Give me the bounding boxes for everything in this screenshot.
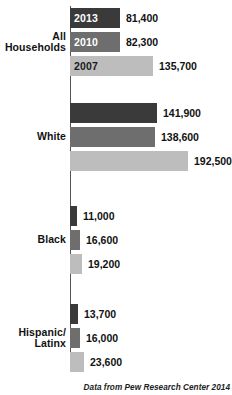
bar: 2007 bbox=[70, 56, 153, 76]
bar-value-label: 19,200 bbox=[88, 258, 120, 270]
bar-row: 138,600 bbox=[0, 127, 232, 147]
bar-chart: AllHouseholds201381,400201082,3002007135… bbox=[0, 0, 232, 395]
source-note: Data from Pew Research Center 2014 bbox=[84, 383, 230, 392]
bar-row: 19,200 bbox=[0, 254, 232, 274]
bar-row: 201381,400 bbox=[0, 8, 232, 28]
bar-value-label: 16,600 bbox=[86, 234, 118, 246]
bar: 2010 bbox=[70, 32, 120, 52]
bar: 2013 bbox=[70, 8, 120, 28]
bar-value-label: 141,900 bbox=[163, 107, 201, 119]
bar bbox=[70, 304, 78, 324]
bar-row: 11,000 bbox=[0, 206, 232, 226]
bar-value-label: 23,600 bbox=[90, 356, 122, 368]
bar-group: Black11,00016,60019,200 bbox=[0, 206, 232, 278]
bar-value-label: 138,600 bbox=[161, 131, 199, 143]
bar-row: 16,600 bbox=[0, 230, 232, 250]
bar-year-label: 2010 bbox=[74, 36, 98, 48]
bar-group: White141,900138,600192,500 bbox=[0, 103, 232, 175]
bar-value-label: 13,700 bbox=[84, 308, 116, 320]
bar bbox=[70, 254, 82, 274]
bar-value-label: 81,400 bbox=[126, 12, 158, 24]
bar-value-label: 135,700 bbox=[159, 60, 197, 72]
bar-row: 141,900 bbox=[0, 103, 232, 123]
bar bbox=[70, 352, 84, 372]
bar-row: 13,700 bbox=[0, 304, 232, 324]
bar-value-label: 192,500 bbox=[194, 155, 232, 167]
bar bbox=[70, 151, 188, 171]
bar-group: Hispanic/Latinx13,70016,00023,600 bbox=[0, 304, 232, 376]
bar bbox=[70, 230, 80, 250]
bar bbox=[70, 127, 155, 147]
bar-row: 16,000 bbox=[0, 328, 232, 348]
bar-value-label: 11,000 bbox=[83, 210, 115, 222]
bar-row: 2007135,700 bbox=[0, 56, 232, 76]
bar-group: AllHouseholds201381,400201082,3002007135… bbox=[0, 8, 232, 80]
bar-row: 23,600 bbox=[0, 352, 232, 372]
bar-row: 192,500 bbox=[0, 151, 232, 171]
bar-value-label: 82,300 bbox=[126, 36, 158, 48]
bar-value-label: 16,000 bbox=[86, 332, 118, 344]
bar bbox=[70, 103, 157, 123]
bar-year-label: 2013 bbox=[74, 12, 98, 24]
bar bbox=[70, 206, 77, 226]
bar-row: 201082,300 bbox=[0, 32, 232, 52]
bar-year-label: 2007 bbox=[74, 60, 98, 72]
bar bbox=[70, 328, 80, 348]
